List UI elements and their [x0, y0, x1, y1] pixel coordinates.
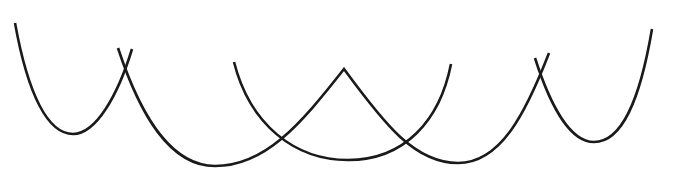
middle-u-curve: [234, 62, 451, 160]
left-u-curve: [15, 23, 132, 134]
curves-drawing: [0, 0, 677, 176]
long-wave-curve: [118, 48, 549, 166]
right-u-curve: [535, 29, 652, 142]
diagram-canvas: [0, 0, 677, 176]
